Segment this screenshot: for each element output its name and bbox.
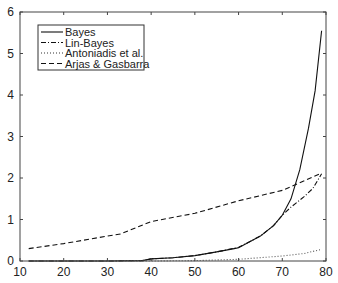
x-tick-label: 80 — [319, 265, 333, 279]
legend: Bayes Lin-Bayes Antoniadis et al. Arjas … — [38, 25, 150, 70]
series-antoniadis-et-al- — [29, 249, 322, 261]
line-chart: 10203040506070800123456 Bayes Lin-Bayes … — [0, 0, 338, 283]
y-tick-label: 2 — [7, 171, 14, 185]
legend-label-arjas: Arjas & Gasbarra — [65, 58, 150, 70]
x-tick-label: 40 — [144, 265, 158, 279]
y-tick-label: 4 — [7, 88, 14, 102]
series-arjas-gasbarra — [29, 173, 322, 249]
x-tick-label: 10 — [13, 265, 27, 279]
series-lin-bayes — [29, 174, 322, 261]
y-tick-label: 5 — [7, 47, 14, 61]
x-tick-label: 60 — [232, 265, 246, 279]
y-tick-label: 1 — [7, 213, 14, 227]
x-tick-label: 30 — [101, 265, 115, 279]
x-tick-label: 70 — [276, 265, 290, 279]
y-tick-label: 3 — [7, 130, 14, 144]
y-tick-label: 6 — [7, 5, 14, 19]
y-tick-label: 0 — [7, 254, 14, 268]
x-tick-label: 20 — [57, 265, 71, 279]
x-tick-label: 50 — [188, 265, 202, 279]
